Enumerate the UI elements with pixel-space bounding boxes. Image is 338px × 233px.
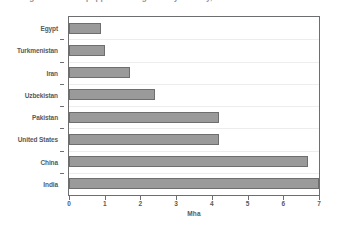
y-axis-tick bbox=[60, 62, 64, 63]
bar-pakistan[interactable] bbox=[69, 112, 219, 123]
chart-plot-area bbox=[68, 16, 320, 196]
x-axis-tick-label-2: 2 bbox=[139, 200, 143, 207]
bar-united-states[interactable] bbox=[69, 134, 219, 145]
bars-container bbox=[69, 17, 319, 195]
x-axis-tick-labels: 01234567 bbox=[68, 200, 320, 210]
x-axis-tick-label-1: 1 bbox=[103, 200, 107, 207]
y-axis-tick bbox=[60, 151, 64, 152]
bar-row bbox=[69, 17, 319, 39]
y-axis-label-iran: Iran bbox=[46, 69, 58, 76]
y-axis-label-united-states: United States bbox=[18, 136, 58, 143]
y-axis-tick bbox=[60, 39, 64, 40]
chart-title-text: Figure 1. Area equipped for irrigation b… bbox=[22, 0, 233, 2]
y-axis-tick bbox=[60, 106, 64, 107]
y-axis-label-china: China bbox=[40, 158, 58, 165]
y-axis-label-turkmenistan: Turkmenistan bbox=[17, 47, 58, 54]
y-axis-tick bbox=[60, 173, 64, 174]
bar-row bbox=[69, 173, 319, 195]
bar-iran[interactable] bbox=[69, 67, 130, 78]
bar-egypt[interactable] bbox=[69, 23, 101, 34]
bar-row bbox=[69, 106, 319, 128]
y-axis-label-pakistan: Pakistan bbox=[32, 114, 58, 121]
bar-row bbox=[69, 62, 319, 84]
x-axis-tick-label-3: 3 bbox=[174, 200, 178, 207]
y-axis-label-india: India bbox=[43, 180, 58, 187]
y-axis-label-egypt: Egypt bbox=[40, 25, 58, 32]
x-axis-title: Mha bbox=[68, 210, 320, 217]
x-axis-tick-label-0: 0 bbox=[67, 200, 71, 207]
chart-title-cropped: Figure 1. Area equipped for irrigation b… bbox=[0, 0, 338, 7]
bar-china[interactable] bbox=[69, 156, 308, 167]
x-axis-tick-label-7: 7 bbox=[317, 200, 321, 207]
y-axis-label-uzbekistan: Uzbekistan bbox=[25, 91, 58, 98]
bar-row bbox=[69, 84, 319, 106]
x-axis-tick-label-5: 5 bbox=[246, 200, 250, 207]
y-axis-labels: EgyptTurkmenistanIranUzbekistanPakistanU… bbox=[0, 16, 64, 196]
bar-row bbox=[69, 151, 319, 173]
y-axis-tick bbox=[60, 84, 64, 85]
bar-row bbox=[69, 128, 319, 150]
bar-india[interactable] bbox=[69, 178, 319, 189]
x-axis-tick-label-4: 4 bbox=[210, 200, 214, 207]
y-axis-tick bbox=[60, 128, 64, 129]
bar-row bbox=[69, 39, 319, 61]
bar-turkmenistan[interactable] bbox=[69, 45, 105, 56]
x-axis-tick-label-6: 6 bbox=[281, 200, 285, 207]
bar-uzbekistan[interactable] bbox=[69, 89, 155, 100]
